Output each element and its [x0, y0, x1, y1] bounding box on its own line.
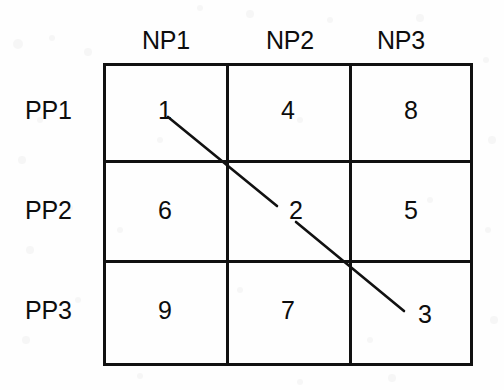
cell-pp2-np1: 6 — [145, 198, 185, 223]
cell-pp3-np1: 9 — [145, 298, 185, 323]
grid-vertical-divider-2 — [349, 63, 352, 366]
row-header-pp3: PP3 — [25, 298, 72, 323]
cell-pp3-np3: 3 — [405, 302, 445, 327]
cell-pp2-np2: 2 — [276, 198, 316, 223]
grid-vertical-divider-1 — [226, 63, 229, 366]
grid-horizontal-divider-2 — [103, 260, 473, 263]
column-header-np3: NP3 — [363, 28, 439, 53]
column-header-np2: NP2 — [252, 28, 328, 53]
cell-pp1-np3: 8 — [391, 98, 431, 123]
cell-pp2-np3: 5 — [391, 198, 431, 223]
cell-pp1-np1: 1 — [145, 98, 185, 123]
row-header-pp1: PP1 — [25, 98, 72, 123]
assignment-grid-figure: NP1 NP2 NP3 PP1 PP2 PP3 1 4 8 6 2 5 9 7 … — [0, 0, 504, 390]
row-header-pp2: PP2 — [25, 198, 72, 223]
cell-pp1-np2: 4 — [268, 98, 308, 123]
grid-horizontal-divider-1 — [103, 160, 473, 163]
cell-pp3-np2: 7 — [268, 298, 308, 323]
column-header-np1: NP1 — [128, 28, 204, 53]
